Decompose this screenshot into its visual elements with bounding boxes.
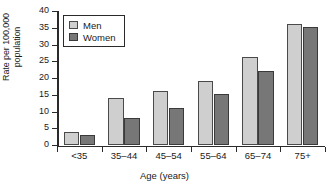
x-axis-tick-label: 65–74 xyxy=(245,150,271,161)
bar-men xyxy=(287,24,303,145)
bar-men xyxy=(64,132,80,144)
bar-men xyxy=(198,81,214,145)
bar-women xyxy=(258,71,274,145)
y-axis-tick-label: 15 xyxy=(29,89,49,100)
legend: MenWomen xyxy=(63,15,125,47)
bar-group xyxy=(191,11,236,145)
bar-women xyxy=(214,94,230,144)
x-axis-title: Age (years) xyxy=(0,170,329,181)
y-axis-tick-label: 5 xyxy=(29,122,49,133)
x-axis-tick xyxy=(146,147,147,152)
bar-women xyxy=(80,135,96,145)
bar-women xyxy=(303,27,319,144)
y-axis-tick-label: 30 xyxy=(29,39,49,50)
bar-women xyxy=(169,108,185,145)
bar-women xyxy=(124,118,140,145)
x-axis-tick-label: 35–44 xyxy=(111,150,137,161)
y-axis-tick-label: 10 xyxy=(29,106,49,117)
bar-men xyxy=(242,57,258,144)
y-axis-tick: 0 xyxy=(52,145,57,146)
legend-item: Men xyxy=(69,19,116,31)
legend-swatch-women xyxy=(69,33,78,41)
bar-chart: Rate per 100,000 population 051015202530… xyxy=(0,0,329,190)
bar-men xyxy=(108,98,124,145)
legend-label-men: Men xyxy=(83,20,101,31)
y-axis-tick-label: 20 xyxy=(29,72,49,83)
y-axis-tick-label: 35 xyxy=(29,22,49,33)
legend-item: Women xyxy=(69,31,116,43)
x-axis-tick xyxy=(236,147,237,152)
x-axis-tick xyxy=(280,147,281,152)
x-axis-tick-label: 55–64 xyxy=(200,150,226,161)
bar-group xyxy=(146,11,191,145)
bar-group xyxy=(236,11,281,145)
x-axis-tick xyxy=(191,147,192,152)
y-axis-title: Rate per 100,000 population xyxy=(1,0,31,107)
legend-label-women: Women xyxy=(83,32,116,43)
x-axis-tick xyxy=(57,147,58,152)
bar-group xyxy=(280,11,325,145)
x-axis-tick-label: 75+ xyxy=(295,150,311,161)
y-axis-tick-label: 0 xyxy=(29,139,49,150)
x-axis-tick-label: 45–54 xyxy=(155,150,181,161)
legend-swatch-men xyxy=(69,21,78,29)
y-axis-tick-label: 25 xyxy=(29,55,49,66)
x-axis-tick-label: <35 xyxy=(71,150,87,161)
x-axis-tick xyxy=(102,147,103,152)
y-axis-tick-label: 40 xyxy=(29,5,49,16)
bar-men xyxy=(153,91,169,145)
x-axis-tick xyxy=(325,147,326,152)
